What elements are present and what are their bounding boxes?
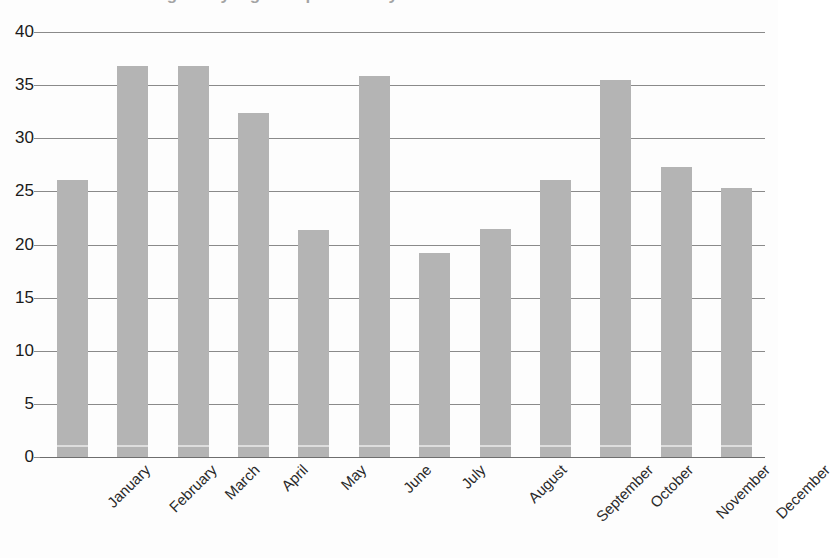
- scan-seam: [600, 445, 631, 447]
- bar-december: [721, 188, 752, 457]
- scan-seam: [419, 445, 450, 447]
- y-tick-label-0: 0: [0, 447, 34, 467]
- scan-seam: [540, 445, 571, 447]
- y-tick-label-25: 25: [0, 181, 34, 201]
- x-tick-label-july: July: [458, 461, 489, 492]
- x-tick-label-april: April: [278, 461, 311, 494]
- bar-february: [117, 66, 148, 457]
- x-tick-label-november: November: [712, 461, 773, 522]
- y-tick-label-5: 5: [0, 394, 34, 414]
- x-axis-labels: JanuaryFebruaryMarchAprilMayJuneJulyAugu…: [40, 461, 765, 558]
- scan-seam: [359, 445, 390, 447]
- x-tick-label-december: December: [773, 461, 834, 522]
- y-tick-label-10: 10: [0, 341, 34, 361]
- bar-april: [238, 113, 269, 457]
- x-tick-label-january: January: [103, 461, 153, 511]
- y-tick-label-40: 40: [0, 22, 34, 42]
- y-tick-label-20: 20: [0, 235, 34, 255]
- bar-june: [359, 76, 390, 457]
- scan-seam: [57, 445, 88, 447]
- y-tick-label-15: 15: [0, 288, 34, 308]
- bar-january: [57, 180, 88, 457]
- scan-seam: [298, 445, 329, 447]
- scan-seam: [117, 445, 148, 447]
- bar-march: [178, 66, 209, 457]
- y-tick-label-30: 30: [0, 128, 34, 148]
- x-tick-label-august: August: [524, 461, 569, 506]
- bar-july: [419, 253, 450, 457]
- scan-seam: [661, 445, 692, 447]
- chart-title-text: Average daily high temperature by month: [120, 0, 455, 5]
- y-axis-labels: 0510152025303540: [0, 32, 34, 457]
- bar-series: [40, 32, 765, 457]
- bar-may: [298, 230, 329, 457]
- bar-september: [540, 180, 571, 457]
- bar-august: [480, 229, 511, 457]
- bar-november: [661, 167, 692, 457]
- x-tick-label-october: October: [647, 461, 697, 511]
- bar-october: [600, 80, 631, 457]
- scan-seam: [178, 445, 209, 447]
- x-tick-label-june: June: [399, 461, 434, 496]
- x-tick-label-march: March: [221, 461, 262, 502]
- y-tick-label-35: 35: [0, 75, 34, 95]
- x-tick-label-september: September: [593, 461, 657, 525]
- plot-area: [40, 32, 765, 457]
- scan-seam: [721, 445, 752, 447]
- axis-baseline: [40, 457, 765, 458]
- x-tick-label-may: May: [338, 461, 370, 493]
- scan-seam: [480, 445, 511, 447]
- scan-seam: [238, 445, 269, 447]
- x-tick-label-february: February: [166, 461, 220, 515]
- chart-title-clipped: Average daily high temperature by month: [0, 0, 778, 7]
